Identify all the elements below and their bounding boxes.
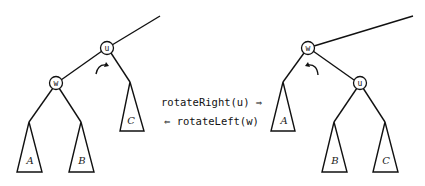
rotate-left-label: ⇐ rotateLeft(w) xyxy=(164,115,259,127)
rotation-diagram: u w C A B w u A B C xyxy=(0,0,425,186)
right-tree: w u A B C xyxy=(271,16,413,172)
subtree-b-label: B xyxy=(330,155,338,166)
subtree-c-label: C xyxy=(382,155,390,166)
subtree-a-label: A xyxy=(25,155,33,166)
node-u-label: u xyxy=(105,44,110,53)
rotate-right-label: rotateRight(u) ⇒ xyxy=(161,96,262,108)
parent-edge xyxy=(112,16,160,45)
node-w-label: w xyxy=(306,44,311,53)
left-tree: u w C A B xyxy=(17,16,160,172)
subtree-c-label: C xyxy=(127,115,135,126)
edge-w-a xyxy=(29,88,53,122)
edge-w-b xyxy=(59,88,81,122)
edge-u-w xyxy=(61,51,102,80)
node-w-label: w xyxy=(54,79,59,88)
edge-w-u xyxy=(313,51,354,80)
node-u-label: u xyxy=(358,79,363,88)
edge-u-c xyxy=(111,53,130,82)
edge-u-b xyxy=(334,88,357,122)
parent-edge xyxy=(314,16,413,46)
edge-u-c xyxy=(363,88,385,122)
subtree-a-label: A xyxy=(279,115,287,126)
subtree-b-label: B xyxy=(77,155,85,166)
edge-w-a xyxy=(283,53,304,82)
